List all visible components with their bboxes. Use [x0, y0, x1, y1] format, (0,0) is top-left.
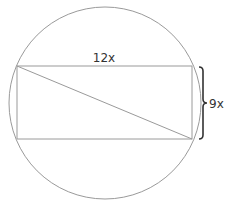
height-brace-icon: [199, 67, 207, 139]
rectangle-diagonal: [17, 66, 192, 139]
diagram-canvas: 12x 9x: [0, 0, 232, 206]
width-label: 12x: [93, 51, 115, 65]
height-label: 9x: [209, 97, 224, 111]
